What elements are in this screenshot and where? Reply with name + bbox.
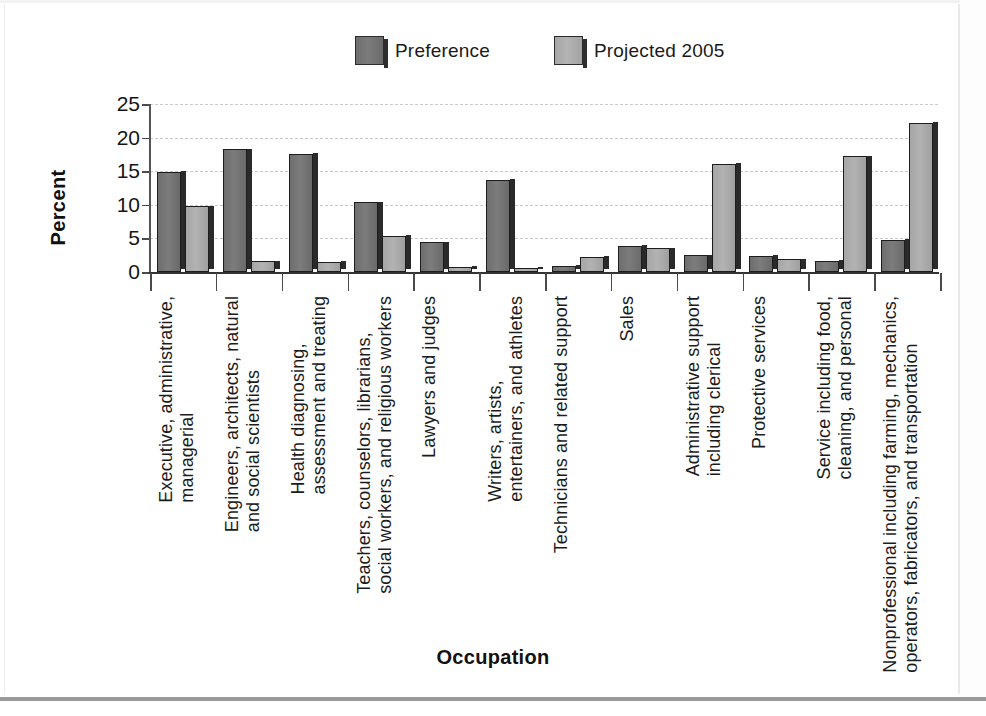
bar-projected-2005-5: [514, 268, 538, 272]
bar-preference-2: [289, 154, 313, 272]
bar-projected-2005-1: [251, 261, 275, 272]
x-tick-4: [413, 273, 415, 291]
bar-preference-1: [223, 149, 247, 272]
category-label-0: Executive, administrative, managerial: [156, 296, 198, 503]
bar-projected-2005-11: [909, 123, 933, 272]
bar-shadow: [510, 179, 515, 269]
category-label-1: Engineers, architects, natural and socia…: [222, 296, 264, 532]
bar-shadow: [444, 242, 449, 270]
bar-shadow: [313, 153, 318, 269]
bar-preference-5: [486, 180, 510, 272]
bar-preference-9: [749, 256, 773, 272]
x-tick-12: [940, 273, 942, 291]
bar-projected-2005-2: [317, 262, 341, 272]
y-tick-label-0: 0: [96, 260, 140, 284]
category-label-4: Lawyers and judges: [419, 296, 440, 458]
bar-preference-8: [684, 255, 708, 272]
y-tick-label-25: 25: [96, 92, 140, 116]
category-label-2: Health diagnosing, assessment and treati…: [288, 296, 330, 494]
x-tick-9: [743, 273, 745, 291]
bar-shadow: [604, 256, 609, 269]
category-label-6: Technicians and related support: [551, 296, 572, 553]
x-tick-5: [479, 273, 481, 291]
y-tick-label-15: 15: [96, 159, 140, 183]
bar-shadow: [406, 235, 411, 269]
x-tick-2: [282, 273, 284, 291]
bar-projected-2005-9: [777, 259, 801, 272]
bar-preference-0: [157, 172, 181, 272]
x-tick-10: [808, 273, 810, 291]
category-label-3: Teachers, counselors, librarians, social…: [354, 296, 396, 594]
y-tick-label-10: 10: [96, 193, 140, 217]
bar-shadow: [247, 149, 252, 270]
bar-shadow: [341, 261, 346, 269]
bar-preference-11: [881, 240, 905, 272]
bar-projected-2005-10: [843, 156, 867, 272]
x-tick-7: [611, 273, 613, 291]
bar-shadow: [538, 267, 543, 269]
chart-page: Preference Projected 2005 Percent 051015…: [0, 0, 986, 716]
category-label-8: Administrative support including clerica…: [683, 296, 725, 476]
bar-preference-6: [552, 266, 576, 272]
bar-projected-2005-3: [382, 236, 406, 272]
bar-shadow: [670, 248, 675, 270]
x-axis-title: Occupation: [0, 646, 986, 669]
x-tick-3: [348, 273, 350, 291]
bar-preference-4: [420, 242, 444, 272]
bar-projected-2005-7: [646, 248, 670, 272]
category-label-7: Sales: [617, 296, 638, 342]
x-tick-1: [216, 273, 218, 291]
bar-projected-2005-8: [712, 164, 736, 272]
bar-shadow: [801, 259, 806, 270]
bar-projected-2005-0: [185, 206, 209, 272]
category-label-9: Protective services: [749, 296, 770, 449]
bar-preference-3: [354, 202, 378, 272]
bar-preference-10: [815, 261, 839, 272]
plot-area: Percent 0510152025 Executive, administra…: [0, 0, 986, 716]
bar-shadow: [736, 163, 741, 269]
bar-shadow: [209, 206, 214, 270]
bar-shadow: [867, 156, 872, 270]
category-label-10: Service including food, cleaning, and pe…: [814, 296, 856, 479]
y-axis-tick-labels: 0510152025: [96, 96, 140, 280]
y-axis-title: Percent: [47, 148, 70, 268]
y-tick-label-20: 20: [96, 126, 140, 150]
bar-preference-7: [618, 246, 642, 272]
x-tick-6: [545, 273, 547, 291]
x-tick-8: [677, 273, 679, 291]
bar-shadow: [472, 266, 477, 269]
category-label-11: Nonprofessional including farming, mecha…: [880, 296, 922, 673]
bar-shadow: [933, 122, 938, 269]
bar-projected-2005-6: [580, 257, 604, 272]
x-tick-11: [874, 273, 876, 291]
bar-projected-2005-4: [448, 267, 472, 272]
bar-shadow: [275, 261, 280, 270]
x-tick-0: [150, 273, 152, 291]
category-label-5: Writers, artists, entertainers, and athl…: [485, 296, 527, 502]
y-tick-label-5: 5: [96, 226, 140, 250]
